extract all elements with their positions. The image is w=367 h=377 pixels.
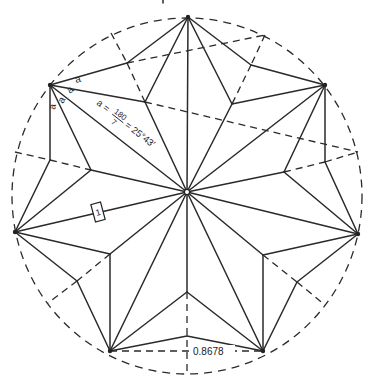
angle-labels: a a a a bbox=[46, 73, 82, 111]
angle-label-3: a bbox=[55, 94, 68, 105]
formula-denominator: 7 bbox=[109, 117, 118, 127]
formula-rhs: = 25°43′ bbox=[123, 119, 157, 149]
angle-label-1: a bbox=[74, 73, 83, 85]
star-outline bbox=[15, 17, 358, 351]
angle-label-4: a bbox=[46, 103, 58, 111]
chord-length-label: 0.8678 bbox=[193, 346, 224, 357]
star-construction-diagram: a a a a a = 180 7 = 25°43′ 1 0.8678 bbox=[0, 0, 367, 377]
formula-lhs: a = bbox=[95, 97, 113, 114]
unit-length-label: 1 bbox=[91, 202, 105, 222]
